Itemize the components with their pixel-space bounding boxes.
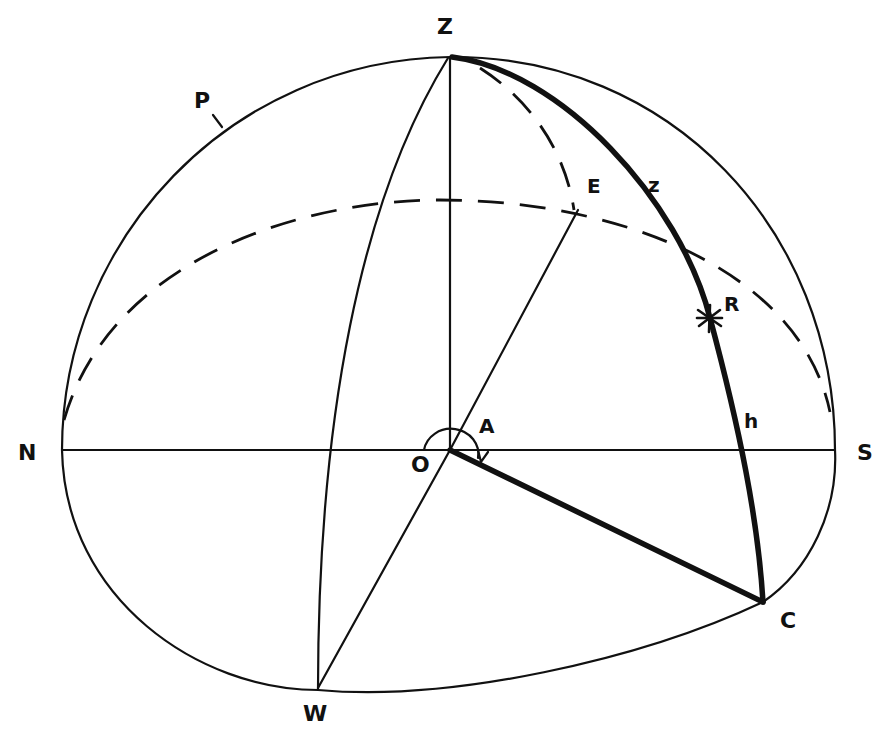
azimuth-arrow-icon <box>478 450 488 462</box>
label-azimuth: A <box>479 414 495 438</box>
horizon-front-arc <box>62 450 835 692</box>
label-west: W <box>303 701 327 726</box>
zenith-east-dashed-arc <box>480 68 574 210</box>
star-marker-icon <box>697 305 722 332</box>
label-north: N <box>18 440 36 465</box>
zenith-west-arc <box>318 58 448 690</box>
label-star: R <box>724 292 739 316</box>
celestial-sphere-diagram: Z P E z R h N S O A C W <box>0 0 890 739</box>
pole-tick <box>213 115 222 127</box>
origin-east-line <box>450 210 578 450</box>
vertical-circle-arc <box>452 57 763 602</box>
label-south: S <box>857 440 873 465</box>
label-altitude: h <box>744 409 758 433</box>
label-zenith: Z <box>437 14 453 39</box>
label-east: E <box>587 174 601 198</box>
label-foot-point: C <box>780 608 796 633</box>
label-zenith-distance: z <box>648 173 660 197</box>
origin-foot-line <box>450 450 763 602</box>
label-origin: O <box>411 452 430 477</box>
origin-west-line <box>318 450 450 688</box>
horizon-back-dashed-arc <box>64 200 830 420</box>
upper-hemisphere-outline <box>62 57 835 450</box>
label-pole-arc: P <box>194 88 210 113</box>
